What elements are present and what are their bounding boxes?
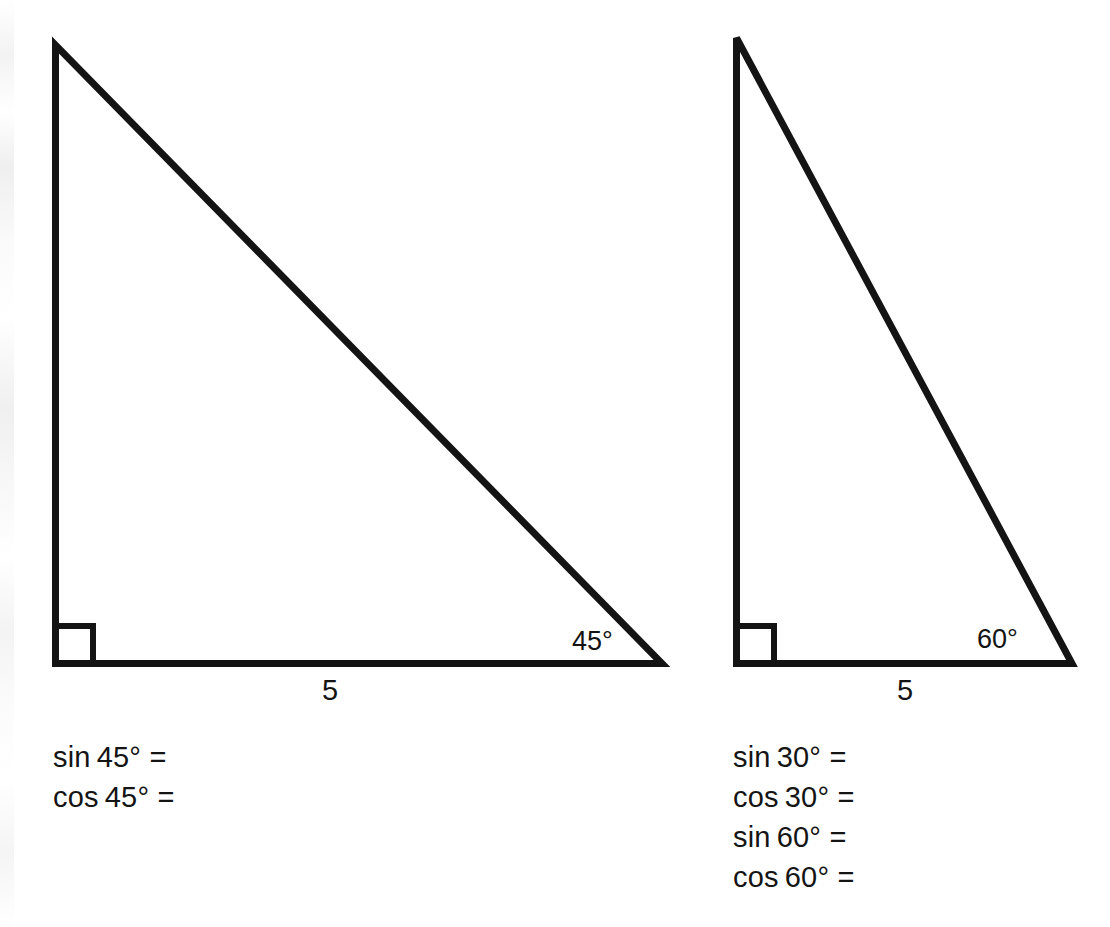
left-triangle-outline <box>56 45 663 664</box>
left-triangle-base-label: 5 <box>300 676 360 705</box>
equation-line: sin 30° = <box>733 737 855 777</box>
equation-line: cos 30° = <box>733 777 855 817</box>
equation-line: sin 60° = <box>733 817 855 857</box>
right-triangle-group <box>737 38 1073 664</box>
right-triangle-base-label: 5 <box>875 676 935 705</box>
right-equation-block: sin 30° = cos 30° = sin 60° = cos 60° = <box>733 737 855 897</box>
right-right-angle-marker-icon <box>737 626 775 664</box>
equation-line: sin 45° = <box>53 737 175 777</box>
equation-line: cos 45° = <box>53 777 175 817</box>
left-right-angle-marker-icon <box>56 626 94 664</box>
left-triangle-angle-label: 45° <box>572 628 613 655</box>
right-triangle-angle-label: 60° <box>977 626 1018 653</box>
left-equation-block: sin 45° = cos 45° = <box>53 737 175 817</box>
right-triangle-outline <box>737 38 1073 664</box>
equation-line: cos 60° = <box>733 857 855 897</box>
left-triangle-group <box>56 45 663 664</box>
